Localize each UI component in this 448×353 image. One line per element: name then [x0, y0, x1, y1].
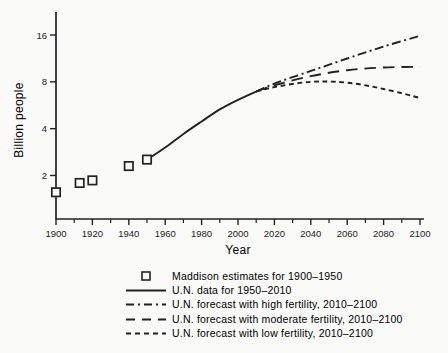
maddison-marker [125, 162, 133, 170]
x-tick-label: 2040 [300, 228, 321, 239]
legend-label-low-fertility: U.N. forecast with low fertility, 2010–2… [172, 327, 373, 339]
square-marker-swatch [125, 270, 167, 282]
x-tick-label: 2080 [373, 228, 394, 239]
y-tick-label: 16 [36, 30, 47, 41]
x-tick-label: 2020 [264, 228, 285, 239]
series-path-1 [147, 92, 256, 160]
legend: Maddison estimates for 1900–1950 U.N. da… [125, 269, 403, 340]
legend-item-low-fertility: U.N. forecast with low fertility, 2010–2… [125, 326, 403, 340]
legend-label-high-fertility: U.N. forecast with high fertility, 2010–… [172, 298, 377, 310]
long-dash-line-swatch [125, 313, 167, 325]
legend-item-high-fertility: U.N. forecast with high fertility, 2010–… [125, 297, 403, 311]
figure: 1900192019401960198020002020204020602080… [0, 0, 448, 353]
x-tick-label: 1980 [191, 228, 212, 239]
legend-label-un-data: U.N. data for 1950–2010 [172, 284, 292, 296]
x-tick-label: 2060 [337, 228, 358, 239]
x-tick-label: 2000 [227, 228, 248, 239]
maddison-marker [143, 155, 151, 163]
maddison-marker [52, 188, 60, 196]
y-tick-label: 4 [42, 123, 47, 134]
legend-label-maddison: Maddison estimates for 1900–1950 [172, 270, 342, 282]
x-axis-title: Year [56, 243, 420, 257]
maddison-marker [75, 179, 83, 187]
legend-item-moderate-fertility: U.N. forecast with moderate fertility, 2… [125, 312, 403, 326]
x-tick-label: 1900 [45, 228, 66, 239]
y-axis-title: Billion people [12, 82, 26, 158]
legend-item-maddison: Maddison estimates for 1900–1950 [125, 269, 403, 283]
y-tick-label: 2 [42, 170, 47, 181]
solid-line-swatch [125, 284, 167, 296]
maddison-marker [88, 176, 96, 184]
legend-item-un-data: U.N. data for 1950–2010 [125, 283, 403, 297]
y-tick-label: 8 [42, 76, 47, 87]
dash-dot-line-swatch [125, 298, 167, 310]
series-path-3 [256, 67, 420, 92]
legend-square-marker [142, 272, 150, 280]
x-tick-label: 1960 [155, 228, 176, 239]
x-tick-label: 1920 [82, 228, 103, 239]
x-tick-label: 2100 [409, 228, 430, 239]
x-tick-label: 1940 [118, 228, 139, 239]
short-dash-line-swatch [125, 327, 167, 339]
axes [56, 12, 424, 219]
legend-label-moderate-fertility: U.N. forecast with moderate fertility, 2… [172, 313, 403, 325]
